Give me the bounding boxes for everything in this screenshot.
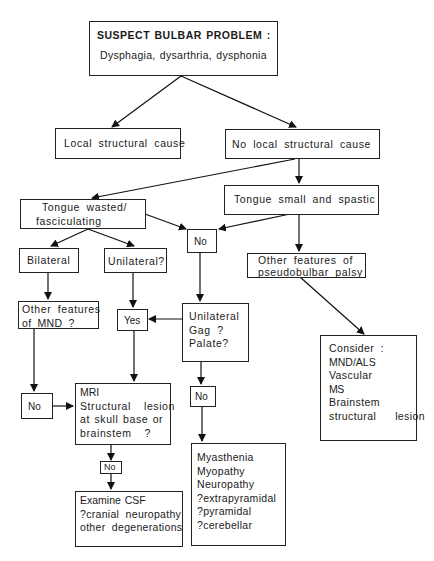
node-bilateral: Bilateral <box>19 248 79 273</box>
node-no-right: No <box>190 386 216 407</box>
node-line: ?pyramidal <box>197 505 285 519</box>
node-label: Yes <box>124 314 147 328</box>
node-line: pseudobulbar palsy <box>258 266 365 278</box>
node-unilateral-question: Unilateral? <box>104 248 167 273</box>
node-line: MND/ALS <box>329 356 416 370</box>
node-label: No local structural cause <box>232 138 379 152</box>
node-line: ?cerebellar <box>197 519 285 533</box>
node-label: Tongue small and spastic <box>234 193 378 207</box>
node-line: Structural lesion <box>80 400 170 414</box>
node-title: SUSPECT BULBAR PROBLEM : <box>97 29 277 43</box>
node-label: Local structural cause <box>64 137 180 151</box>
node-line: at skull base or <box>80 413 170 427</box>
node-consider: Consider : MND/ALS Vascular MS Brainstem… <box>320 335 417 441</box>
node-local-structural-cause: Local structural cause <box>55 128 181 159</box>
node-examine-csf: Examine CSF ?cranial neuropathy other de… <box>75 491 183 547</box>
node-line: Gag ? <box>189 324 248 338</box>
node-tongue-wasted-fasciculating: Tongue wasted/ fasciculating <box>20 199 146 229</box>
node-tongue-small-spastic: Tongue small and spastic <box>224 185 379 215</box>
node-no-local-structural-cause: No local structural cause <box>225 129 380 159</box>
node-line: other degenerations <box>80 521 182 535</box>
node-line: ?extrapyramidal <box>197 492 285 506</box>
node-line: MRI <box>80 386 170 400</box>
node-no-left: No <box>21 393 53 419</box>
node-yes: Yes <box>117 309 148 331</box>
node-line: Palate? <box>189 337 248 351</box>
node-label: Bilateral <box>27 254 78 268</box>
node-mri-structural-lesion: MRI Structural lesion at skull base or b… <box>75 383 171 445</box>
node-suspect-bulbar-problem: SUSPECT BULBAR PROBLEM : Dysphagia, dysa… <box>89 21 278 76</box>
node-line: Neuropathy <box>197 478 285 492</box>
node-line: structural lesion <box>329 410 416 424</box>
node-label: Unilateral? <box>108 255 166 269</box>
node-line: Tongue wasted/ <box>36 201 145 215</box>
node-line: brainstem ? <box>80 427 170 441</box>
node-label: No <box>195 390 215 404</box>
node-line: MS <box>329 383 416 397</box>
node-line: Unilateral <box>189 310 248 324</box>
node-line: Examine CSF <box>80 494 182 508</box>
node-line: Other features <box>22 303 98 317</box>
node-no-mid: No <box>187 229 217 253</box>
node-other-features-mnd: Other features of MND ? <box>18 301 99 329</box>
node-pseudobulbar-palsy: Other features of pseudobulbar palsy <box>247 253 366 278</box>
node-unilateral-gag-palate: Unilateral Gag ? Palate? <box>182 303 249 362</box>
node-subtitle: Dysphagia, dysarthria, dysphonia <box>97 49 277 63</box>
node-no-small: No <box>100 461 122 474</box>
node-line: fasciculating <box>36 215 145 229</box>
node-line: Vascular <box>329 369 416 383</box>
node-line: Brainstem <box>329 396 416 410</box>
node-myasthenia-list: Myasthenia Myopathy Neuropathy ?extrapyr… <box>191 443 286 546</box>
node-line: Myopathy <box>197 465 285 479</box>
node-line: Consider : <box>329 342 416 356</box>
node-label: No <box>104 462 121 473</box>
node-line: Other features of <box>258 254 365 266</box>
node-line: Myasthenia <box>197 451 285 465</box>
node-line: of MND ? <box>22 317 98 331</box>
node-label: No <box>194 235 216 249</box>
node-line: ?cranial neuropathy <box>80 508 182 522</box>
node-label: No <box>28 400 52 414</box>
